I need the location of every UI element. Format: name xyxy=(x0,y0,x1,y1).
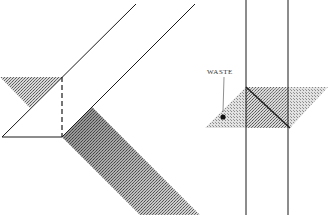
waste-leader-line xyxy=(223,77,224,112)
diagram-svg xyxy=(0,0,332,215)
strip-edge-upper xyxy=(2,4,136,137)
left-diagram xyxy=(0,4,200,215)
shaded-triangle xyxy=(0,77,62,108)
diagram-canvas: WASTE xyxy=(0,0,332,215)
waste-dot xyxy=(220,114,225,119)
waste-label: WASTE xyxy=(207,68,233,76)
right-diagram xyxy=(205,0,328,215)
strip-edge-lower xyxy=(62,4,195,137)
